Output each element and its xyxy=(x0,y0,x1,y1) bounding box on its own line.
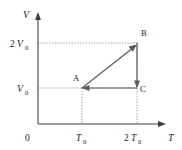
y-tick-v0-subscript: 0 xyxy=(25,89,29,96)
volume-axis-arrowhead-icon xyxy=(35,12,41,20)
process-paths-group xyxy=(82,43,140,91)
y-tick-label-v0: V 0 xyxy=(17,84,29,96)
y-tick-2v0-subscript: 0 xyxy=(25,44,29,51)
point-label-c: C xyxy=(140,84,146,94)
process-line-a-to-b xyxy=(82,48,133,88)
x-tick-2t0-main: T xyxy=(131,133,137,143)
point-label-a: A xyxy=(73,73,80,83)
temperature-axis-label: T xyxy=(168,132,175,143)
temperature-axis-arrowhead-icon xyxy=(158,121,166,127)
y-tick-v0-main: V xyxy=(17,84,24,94)
x-tick-2t0-subscript: 0 xyxy=(138,138,142,145)
vt-diagram-figure: V T 0 2 V 0 V 0 T 0 2 T 0 A B C xyxy=(0,0,182,150)
y-tick-label-2v0: 2 V 0 xyxy=(10,39,29,51)
x-tick-label-t0: T 0 xyxy=(76,133,87,145)
volume-axis-label: V xyxy=(23,9,31,20)
vt-diagram-canvas: V T 0 2 V 0 V 0 T 0 2 T 0 A B C xyxy=(0,0,182,150)
x-tick-2t0-prefix: 2 xyxy=(124,133,129,143)
point-label-b: B xyxy=(141,28,147,38)
origin-label: 0 xyxy=(25,133,30,143)
y-tick-2v0-main: V xyxy=(17,39,24,49)
x-tick-t0-main: T xyxy=(76,133,82,143)
y-tick-2v0-prefix: 2 xyxy=(10,39,15,49)
x-tick-t0-subscript: 0 xyxy=(83,138,87,145)
x-tick-label-2t0: 2 T 0 xyxy=(124,133,142,145)
